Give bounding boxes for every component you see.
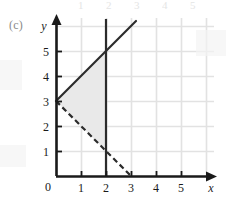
y-tick-label-4: 4: [43, 70, 49, 84]
x-tick-label-3: 3: [128, 181, 134, 195]
coordinate-plane: 0 1 2 3 4 5 1 2 3 4 5 y x: [0, 0, 226, 200]
y-tick-label-3: 3: [43, 95, 49, 109]
y-axis-label: y: [40, 19, 47, 33]
graph-figure: 1 2 3 4 5 (c): [0, 0, 226, 200]
y-tick-label-2: 2: [43, 120, 49, 134]
x-tick-label-1: 1: [78, 181, 84, 195]
y-axis-arrow-icon: [52, 14, 62, 25]
part-label: (c): [9, 18, 23, 33]
x-tick-label-4: 4: [153, 181, 159, 195]
x-tick-label-2: 2: [103, 181, 109, 195]
x-axis-label: x: [207, 181, 214, 195]
x-axis-arrow-icon: [206, 172, 217, 182]
x-tick-label-0: 0: [45, 180, 51, 194]
x-tick-label-5: 5: [178, 181, 184, 195]
y-tick-label-1: 1: [43, 145, 49, 159]
y-tick-label-5: 5: [43, 45, 49, 59]
